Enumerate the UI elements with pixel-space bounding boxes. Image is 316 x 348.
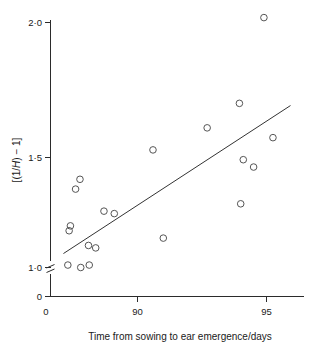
y-tick-label-2-0: 2·0	[28, 17, 42, 28]
data-point	[240, 156, 247, 163]
y-axis-break-icon	[47, 265, 55, 273]
data-point	[92, 245, 99, 252]
x-axis-title: Time from sowing to ear emergence/days	[88, 331, 272, 342]
data-point	[111, 210, 118, 217]
y-tick-label-origin: 0	[37, 291, 42, 302]
y-axis-title: [(1/H) − 1]	[11, 137, 22, 182]
x-tick-label-95: 95	[261, 306, 272, 317]
y-axis-ticks	[45, 23, 51, 297]
data-point	[72, 186, 79, 193]
regression-line-layer	[63, 106, 290, 254]
x-tick-label-origin: 0	[43, 306, 48, 317]
data-point	[85, 242, 92, 249]
data-point	[270, 134, 277, 141]
data-point	[101, 208, 108, 215]
data-point	[77, 176, 84, 183]
y-tick-label-1-0: 1·0	[28, 262, 42, 273]
data-point	[204, 125, 211, 132]
data-point	[236, 100, 243, 107]
regression-line	[63, 106, 290, 254]
plot-axes	[47, 20, 305, 297]
y-tick-label-1-5: 1·5	[28, 152, 42, 163]
data-point	[250, 164, 257, 171]
data-point	[77, 264, 84, 271]
data-point	[160, 235, 167, 242]
data-point	[86, 262, 93, 269]
x-axis-ticks	[138, 297, 267, 303]
plot-canvas: 2·0 1·5 1·0 0 0 90 95 Time from sowing t…	[0, 0, 316, 348]
data-point	[65, 262, 72, 269]
data-point	[261, 14, 268, 21]
scatter-plot-figure: 2·0 1·5 1·0 0 0 90 95 Time from sowing t…	[0, 0, 316, 348]
x-tick-label-90: 90	[132, 306, 143, 317]
data-point	[150, 147, 157, 154]
x-axis-tick-labels: 0 90 95	[43, 306, 271, 317]
data-point	[237, 201, 244, 208]
y-axis-tick-labels: 2·0 1·5 1·0 0	[28, 17, 42, 302]
